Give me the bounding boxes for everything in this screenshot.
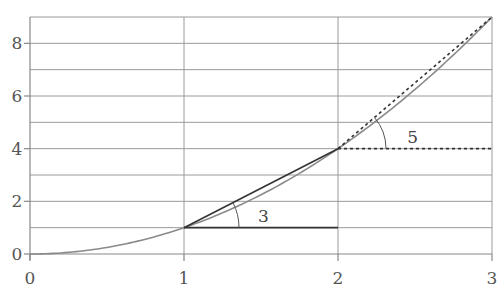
y-tick-label: 8 [12,33,23,53]
x-tick-label: 2 [333,268,344,288]
y-tick-label: 6 [12,86,23,106]
x-tick-label: 1 [179,268,190,288]
tick-labels: 012302468 [12,33,498,288]
annotations: 35 [233,117,418,227]
chart: 012302468 35 [0,0,503,293]
angle-label: 5 [407,127,418,147]
angle-label: 3 [258,206,269,226]
x-tick-label: 0 [25,268,36,288]
y-tick-label: 2 [12,191,23,211]
y-tick-label: 4 [12,139,23,159]
x-tick-label: 3 [487,268,498,288]
y-tick-label: 0 [12,244,23,264]
